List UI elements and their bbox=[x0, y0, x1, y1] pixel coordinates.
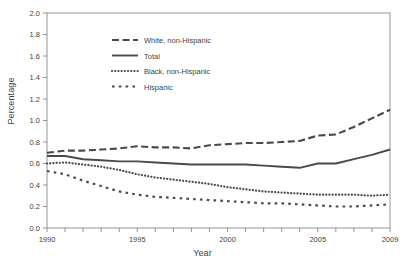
y-tick-label: 0.6 bbox=[30, 159, 40, 168]
chart-plot-area: 0.00.20.40.60.81.01.21.41.61.82.01990199… bbox=[0, 0, 405, 264]
y-tick-label: 1.4 bbox=[30, 73, 40, 82]
y-tick-label: 0.8 bbox=[30, 138, 40, 147]
y-tick-label: 0.0 bbox=[30, 224, 40, 233]
y-tick-label: 1.6 bbox=[30, 52, 40, 61]
series-line-2 bbox=[47, 162, 390, 195]
series-line-3 bbox=[47, 171, 390, 206]
legend-label-0: White, non-Hispanic bbox=[144, 36, 211, 45]
y-tick-label: 1.2 bbox=[30, 95, 40, 104]
y-tick-label: 0.4 bbox=[30, 181, 40, 190]
x-tick-label: 1990 bbox=[39, 235, 56, 244]
line-chart: 0.00.20.40.60.81.01.21.41.61.82.01990199… bbox=[0, 0, 405, 264]
y-tick-label: 1.0 bbox=[30, 116, 40, 125]
x-tick-label: 2005 bbox=[309, 235, 326, 244]
series-line-1 bbox=[47, 150, 390, 168]
y-tick-label: 1.8 bbox=[30, 30, 40, 39]
y-tick-label: 2.0 bbox=[30, 9, 40, 18]
legend-label-2: Black, non-Hispanic bbox=[144, 67, 211, 76]
legend-label-3: Hispanic bbox=[144, 83, 173, 92]
x-tick-label: 2000 bbox=[219, 235, 236, 244]
y-tick-label: 0.2 bbox=[30, 202, 40, 211]
plot-frame bbox=[47, 13, 390, 228]
x-axis-title: Year bbox=[0, 248, 405, 258]
series-line-0 bbox=[47, 110, 390, 153]
x-tick-label: 1995 bbox=[129, 235, 146, 244]
legend-label-1: Total bbox=[144, 52, 160, 61]
x-tick-label: 2009 bbox=[382, 235, 399, 244]
y-axis-title: Percentage bbox=[6, 66, 16, 136]
